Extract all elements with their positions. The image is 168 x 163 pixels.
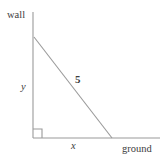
ladder-hypotenuse-line	[34, 37, 112, 138]
wall-label: wall	[7, 10, 25, 21]
vertical-leg-label: y	[21, 82, 26, 93]
hypotenuse-length-label: 5	[75, 74, 81, 85]
horizontal-leg-label: x	[71, 141, 76, 152]
geometry-diagram: wall ground y x 5	[0, 0, 168, 163]
ground-label: ground	[122, 144, 152, 155]
right-angle-marker-icon	[33, 129, 42, 138]
